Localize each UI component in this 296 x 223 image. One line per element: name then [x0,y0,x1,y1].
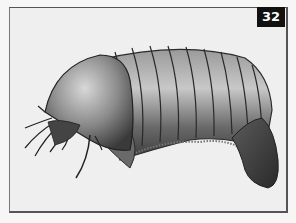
illustration-canvas: 32 [0,0,296,223]
isopod-illustration [0,0,296,223]
figure-number-badge: 32 [257,7,285,27]
